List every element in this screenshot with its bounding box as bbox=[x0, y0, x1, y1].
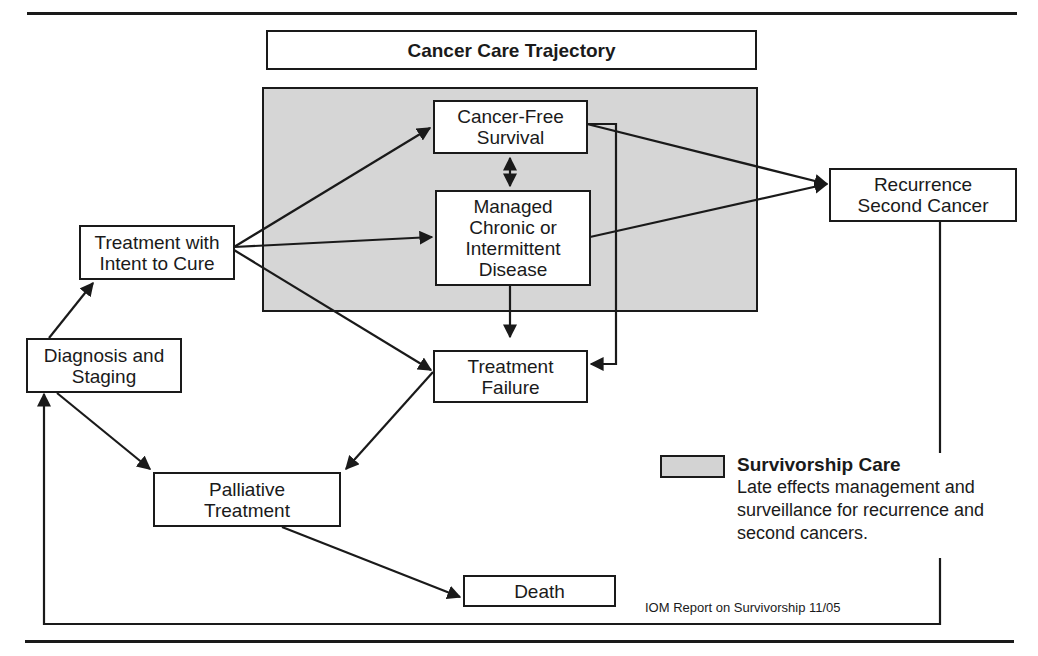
edge-cancerfree-to-recurrence bbox=[587, 124, 827, 184]
node-diagnosis-staging: Diagnosis and Staging bbox=[26, 338, 182, 393]
legend-title: Survivorship Care bbox=[737, 454, 901, 476]
node-recurrence-second-cancer: Recurrence Second Cancer bbox=[829, 168, 1017, 222]
connector-lines bbox=[0, 0, 1038, 656]
legend-swatch bbox=[660, 455, 725, 478]
node-treatment-failure: Treatment Failure bbox=[433, 350, 588, 403]
edge-managed-to-recurrence bbox=[590, 184, 827, 237]
edge-treatment-to-managed bbox=[234, 237, 432, 247]
node-death: Death bbox=[463, 575, 616, 607]
edge-cancerfree-to-failure bbox=[587, 124, 616, 364]
edge-palliative-to-death bbox=[282, 527, 460, 597]
node-managed-chronic-disease: Managed Chronic or Intermittent Disease bbox=[435, 190, 591, 286]
legend-description: Late effects management and surveillance… bbox=[737, 476, 1027, 545]
source-citation: IOM Report on Survivorship 11/05 bbox=[645, 600, 841, 615]
edge-diagnosis-to-palliative bbox=[57, 393, 150, 469]
edge-treatment-to-cancerfree bbox=[234, 128, 430, 247]
edge-diagnosis-to-treatment bbox=[49, 283, 93, 338]
node-cancer-free-survival: Cancer-Free Survival bbox=[433, 100, 588, 154]
node-palliative-treatment: Palliative Treatment bbox=[153, 472, 341, 527]
edge-failure-to-palliative bbox=[346, 372, 433, 469]
edge-treatment-to-failure bbox=[234, 250, 431, 370]
node-treatment-intent-to-cure: Treatment with Intent to Cure bbox=[79, 225, 235, 280]
